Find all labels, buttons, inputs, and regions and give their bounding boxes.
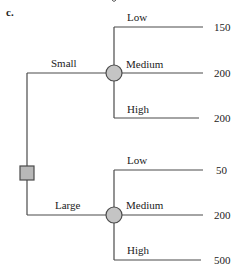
branch-large: Large xyxy=(27,199,106,215)
payoff-large-high: 500 xyxy=(214,254,231,266)
chance-node-large-circle xyxy=(106,207,122,223)
chance-node-large-outcomes: Low 50 Medium 200 High 500 xyxy=(114,154,231,266)
outcome-label-large-medium: Medium xyxy=(126,199,164,211)
payoff-small-high: 200 xyxy=(214,112,231,124)
decision-node-square xyxy=(20,166,34,180)
payoff-large-low: 50 xyxy=(216,164,228,176)
outcome-label-small-low: Low xyxy=(127,11,147,23)
branch-label-small: Small xyxy=(51,57,77,69)
chance-node-small-circle xyxy=(106,65,122,81)
outcome-label-small-medium: Medium xyxy=(126,58,164,70)
chance-node-small-outcomes: Low 150 Medium 200 High 200 xyxy=(114,11,231,124)
decision-tree-diagram: c. Small Large Low 150 Medium 200 High 2… xyxy=(0,0,241,268)
payoff-small-low: 150 xyxy=(214,21,231,33)
outcome-label-small-high: High xyxy=(127,103,150,115)
branch-small: Small xyxy=(27,57,106,73)
outcome-label-large-high: High xyxy=(127,244,150,256)
outcome-label-large-low: Low xyxy=(127,154,147,166)
payoff-small-medium: 200 xyxy=(214,67,231,79)
payoff-large-medium: 200 xyxy=(214,209,231,221)
cropped-glyph-fragment xyxy=(112,0,116,2)
branch-label-large: Large xyxy=(55,199,81,211)
part-label: c. xyxy=(6,6,14,18)
